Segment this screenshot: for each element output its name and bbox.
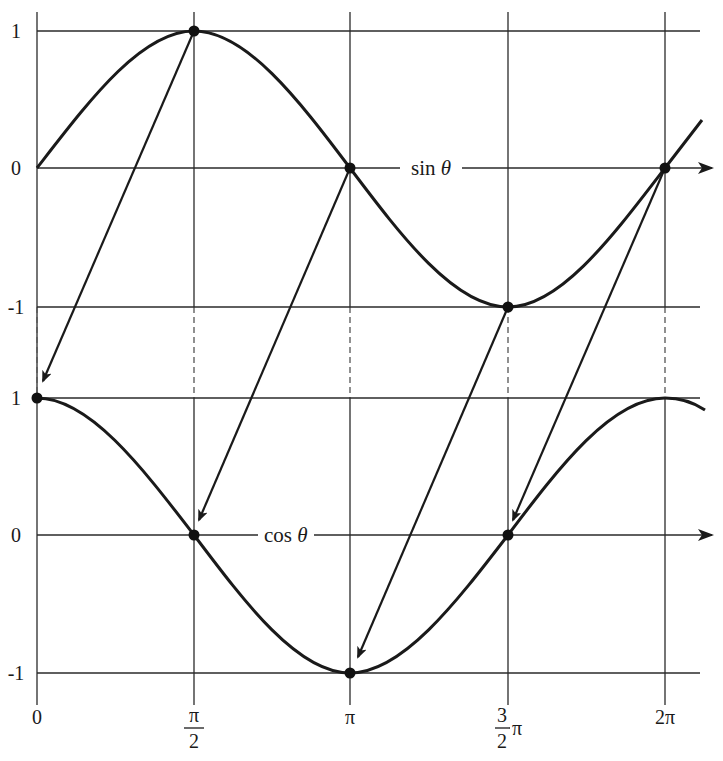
xtick-three-half-pi-numerator: 3 xyxy=(497,704,507,726)
point-sin-twopi xyxy=(660,163,671,174)
sine-cosine-phase-diagram: sin θ cos θ 1 0 -1 1 0 -1 0 π 2 π 3 2 π … xyxy=(0,0,723,761)
point-cos-halfpi xyxy=(189,530,200,541)
arrow-sin-halfpi-to-cos-0 xyxy=(43,31,194,381)
xtick-two-pi: 2π xyxy=(655,706,675,728)
point-sin-three-halfpi xyxy=(503,302,514,313)
xtick-0: 0 xyxy=(32,706,42,728)
xtick-pi: π xyxy=(345,706,355,728)
horizontal-gridlines xyxy=(37,31,712,673)
phase-shift-arrows xyxy=(43,31,665,657)
cos-ytick-0: 0 xyxy=(11,524,21,546)
arrow-sin-threehalfpi-to-cos-pi xyxy=(358,307,508,657)
sin-label: sin θ xyxy=(411,156,451,180)
xtick-three-half-pi-suffix: π xyxy=(512,717,522,739)
point-cos-0 xyxy=(32,393,43,404)
cos-label: cos θ xyxy=(264,523,308,547)
arrow-sin-twopi-to-cos-threehalfpi xyxy=(513,168,665,520)
point-sin-pi xyxy=(345,163,356,174)
sin-ytick-1: 1 xyxy=(11,20,21,42)
sine-curve xyxy=(37,31,702,307)
point-cos-pi xyxy=(345,668,356,679)
point-sin-halfpi xyxy=(189,26,200,37)
marked-points xyxy=(32,26,671,679)
point-cos-three-halfpi xyxy=(503,530,514,541)
vertical-gridlines xyxy=(37,12,665,705)
sin-ytick-0: 0 xyxy=(11,157,21,179)
cos-ytick-1: 1 xyxy=(11,387,21,409)
cos-ytick-neg1: -1 xyxy=(8,662,25,684)
sin-ytick-neg1: -1 xyxy=(8,296,25,318)
xtick-half-pi-denominator: 2 xyxy=(189,730,199,752)
xtick-half-pi: π 2 xyxy=(184,704,204,752)
arrow-sin-pi-to-cos-halfpi xyxy=(199,168,350,520)
xtick-three-half-pi-denominator: 2 xyxy=(497,730,507,752)
xtick-three-half-pi: 3 2 π xyxy=(495,704,522,752)
xtick-half-pi-numerator: π xyxy=(189,704,199,726)
